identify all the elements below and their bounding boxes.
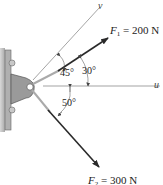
pin-icon xyxy=(27,84,33,90)
force-label-f2: F2 = 300 N xyxy=(88,175,137,185)
cable-f2 xyxy=(32,90,50,112)
bolt-icon xyxy=(9,107,15,113)
force-arrow-f2 xyxy=(48,110,99,167)
angle-label-30: 30° xyxy=(82,66,96,76)
cable-f1 xyxy=(33,70,60,84)
angle-label-50: 50° xyxy=(62,98,76,108)
force-diagram: v u F1 = 200 N F2 = 300 N 45° 30° 50° xyxy=(0,0,163,185)
force-label-f1: F1 = 200 N xyxy=(110,25,159,38)
v-axis-label: v xyxy=(98,1,102,11)
angle-label-45: 45° xyxy=(60,68,74,78)
bracket xyxy=(11,74,34,104)
u-axis-label: u xyxy=(154,80,159,90)
bolt-icon xyxy=(9,60,15,66)
